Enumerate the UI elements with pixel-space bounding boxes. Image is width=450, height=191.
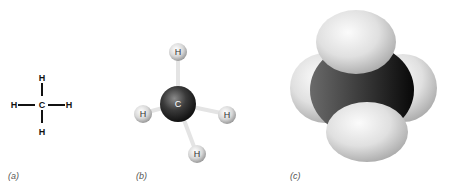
bond-top [41,83,43,96]
panel-b-ball-and-stick: H H H C H (b) [110,0,270,191]
space-filling-model [270,0,450,191]
ball-h-bottom-label: H [194,149,201,159]
ball-and-stick-model [110,0,270,191]
sf-hydrogen-top [316,10,396,74]
atom-h-right: H [66,100,73,110]
bond-right [48,104,65,106]
ball-c-label: C [175,99,182,109]
atom-h-left: H [11,100,18,110]
ball-h-top-label: H [175,47,182,57]
panel-c-space-filling: (c) [270,0,450,191]
panel-c-label: (c) [290,171,301,181]
panel-a-label: (a) [8,171,19,181]
ball-h-right-label: H [224,110,231,120]
ball-h-left-label: H [140,109,147,119]
panel-b-label: (b) [136,171,147,181]
bond-bottom [41,110,43,123]
atom-c: C [39,100,46,110]
atom-h-bottom: H [39,127,46,137]
sf-hydrogen-bottom [326,102,408,162]
panel-a-structural-formula: H C H H H (a) [0,0,110,191]
bond-left [18,104,35,106]
atom-h-top: H [39,73,46,83]
